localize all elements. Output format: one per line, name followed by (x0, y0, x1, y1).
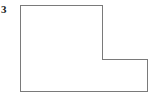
l-shape-diagram (0, 0, 163, 100)
l-shaped-polygon (20, 5, 147, 91)
figure-container: 3 (0, 0, 163, 100)
